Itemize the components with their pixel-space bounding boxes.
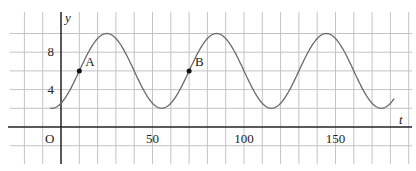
- x-tick-label: 150: [326, 131, 346, 146]
- x-tick-label: 50: [146, 131, 159, 146]
- x-axis-label: t: [399, 112, 403, 127]
- x-tick-label: 100: [234, 131, 254, 146]
- point-b: [187, 68, 192, 73]
- y-tick-label: 8: [48, 44, 55, 59]
- y-axis-label: y: [63, 10, 71, 25]
- chart-canvas: AB 5010015048 y t O: [0, 0, 416, 171]
- y-tick-label: 4: [48, 82, 55, 97]
- point-label-b: B: [195, 54, 204, 69]
- point-label-a: A: [85, 54, 95, 69]
- origin-label: O: [45, 131, 54, 146]
- point-a: [77, 68, 82, 73]
